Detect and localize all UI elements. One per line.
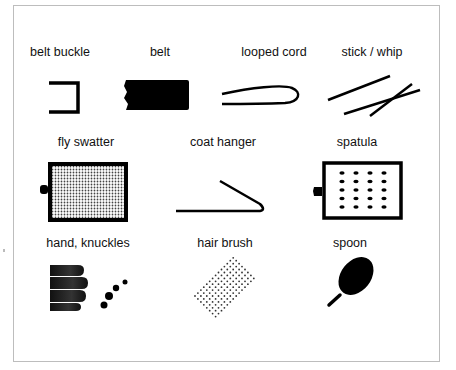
brush-bristle bbox=[218, 313, 220, 315]
brush-bristle bbox=[212, 295, 214, 297]
brush-bristle bbox=[224, 301, 226, 303]
brush-bristle bbox=[229, 266, 231, 268]
brush-bristle bbox=[224, 283, 226, 285]
brush-bristle bbox=[221, 298, 223, 300]
brush-bristle bbox=[226, 292, 228, 294]
brush-bristle bbox=[253, 278, 255, 280]
brush-bristle bbox=[221, 269, 223, 271]
brush-bristle bbox=[218, 307, 220, 309]
brush-bristle bbox=[221, 286, 223, 288]
brush-bristle bbox=[200, 295, 202, 297]
brush-bristle bbox=[215, 292, 217, 294]
brush-bristle bbox=[212, 283, 214, 285]
spatula-hole bbox=[339, 180, 344, 184]
brush-bristle bbox=[215, 316, 217, 318]
brush-bristle bbox=[238, 275, 240, 277]
brush-bristle bbox=[221, 292, 223, 294]
brush-bristle bbox=[241, 289, 243, 291]
brush-bristle bbox=[224, 278, 226, 280]
brush-bristle bbox=[203, 286, 205, 288]
spatula-hole bbox=[367, 180, 372, 184]
brush-bristle bbox=[241, 272, 243, 274]
brush-bristle bbox=[247, 283, 249, 285]
spatula-hole bbox=[381, 171, 386, 175]
brush-bristle bbox=[206, 289, 208, 291]
brush-bristle bbox=[215, 286, 217, 288]
brush-bristle bbox=[244, 280, 246, 282]
brush-bristle bbox=[241, 283, 243, 285]
brush-bristle bbox=[226, 275, 228, 277]
brush-bristle bbox=[212, 278, 214, 280]
brush-bristle bbox=[235, 283, 237, 285]
hair-brush-icon bbox=[194, 257, 255, 318]
spatula-hole bbox=[381, 197, 386, 201]
brush-bristle bbox=[221, 275, 223, 277]
brush-bristle bbox=[221, 280, 223, 282]
brush-bristle bbox=[215, 304, 217, 306]
spatula-hole bbox=[367, 171, 372, 175]
spatula-hole bbox=[353, 180, 358, 184]
brush-bristle bbox=[200, 289, 202, 291]
brush-bristle bbox=[241, 278, 243, 280]
brush-bristle bbox=[224, 307, 226, 309]
brush-bristle bbox=[232, 292, 234, 294]
brush-bristle bbox=[229, 272, 231, 274]
brush-bristle bbox=[203, 304, 205, 306]
brush-bristle bbox=[229, 278, 231, 280]
looped-cord-icon bbox=[222, 86, 298, 104]
brush-bristle bbox=[224, 289, 226, 291]
brush-bristle bbox=[238, 286, 240, 288]
brush-bristle bbox=[206, 295, 208, 297]
brush-bristle bbox=[215, 310, 217, 312]
spatula-hole bbox=[339, 205, 344, 209]
brush-bristle bbox=[197, 292, 199, 294]
brush-bristle bbox=[215, 275, 217, 277]
brush-bristle bbox=[209, 280, 211, 282]
spatula-hole bbox=[367, 197, 372, 201]
brush-bristle bbox=[212, 301, 214, 303]
brush-bristle bbox=[229, 295, 231, 297]
coat-hanger-icon bbox=[176, 181, 263, 211]
brush-bristle bbox=[200, 301, 202, 303]
spatula-hole bbox=[339, 197, 344, 201]
brush-bristle bbox=[224, 272, 226, 274]
brush-bristle bbox=[221, 310, 223, 312]
brush-bristle bbox=[221, 304, 223, 306]
brush-bristle bbox=[212, 289, 214, 291]
brush-bristle bbox=[218, 301, 220, 303]
spatula-hole bbox=[353, 197, 358, 201]
spatula-hole bbox=[381, 205, 386, 209]
fly-swatter-icon bbox=[40, 164, 126, 220]
brush-bristle bbox=[226, 304, 228, 306]
brush-bristle bbox=[229, 301, 231, 303]
brush-bristle bbox=[218, 272, 220, 274]
brush-bristle bbox=[206, 283, 208, 285]
brush-bristle bbox=[247, 272, 249, 274]
brush-bristle bbox=[238, 263, 240, 265]
brush-bristle bbox=[235, 266, 237, 268]
brush-bristle bbox=[247, 278, 249, 280]
brush-bristle bbox=[226, 263, 228, 265]
spatula-hole bbox=[353, 205, 358, 209]
brush-bristle bbox=[229, 260, 231, 262]
brush-bristle bbox=[250, 280, 252, 282]
spatula-hole bbox=[353, 188, 358, 192]
spatula-hole bbox=[339, 188, 344, 192]
hand-knuckles-icon bbox=[50, 265, 128, 311]
brush-bristle bbox=[215, 298, 217, 300]
spoon-icon bbox=[329, 250, 381, 305]
brush-bristle bbox=[218, 283, 220, 285]
spatula-hole bbox=[381, 188, 386, 192]
brush-bristle bbox=[215, 280, 217, 282]
brush-bristle bbox=[232, 286, 234, 288]
spatula-hole bbox=[367, 205, 372, 209]
brush-bristle bbox=[229, 289, 231, 291]
brush-bristle bbox=[218, 278, 220, 280]
brush-bristle bbox=[203, 292, 205, 294]
belt-buckle-icon bbox=[49, 83, 78, 112]
brush-bristle bbox=[232, 298, 234, 300]
brush-bristle bbox=[212, 313, 214, 315]
brush-bristle bbox=[238, 280, 240, 282]
spatula-hole bbox=[353, 171, 358, 175]
brush-bristle bbox=[232, 275, 234, 277]
